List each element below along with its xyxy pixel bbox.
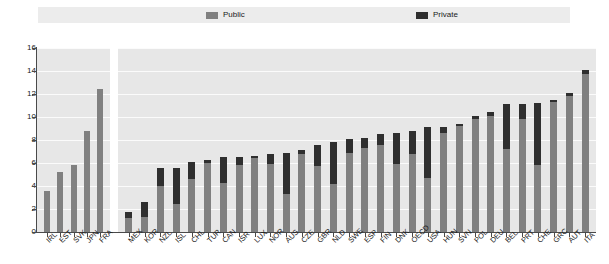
bar-segment-public	[141, 217, 148, 232]
bar-segment-public	[314, 166, 321, 232]
y-axis-tick-mark	[32, 48, 37, 49]
legend-label-public: Public	[223, 11, 245, 19]
y-axis-tick-mark	[32, 140, 37, 141]
bar-nld	[330, 142, 337, 232]
bar-segment-public	[157, 186, 164, 232]
bar-segment-public	[409, 154, 416, 232]
x-axis-tick-mark	[208, 233, 209, 237]
x-axis-tick-mark	[129, 233, 130, 237]
bar-gbr	[314, 145, 321, 232]
bar-segment-private	[330, 142, 337, 183]
bar-segment-public	[377, 145, 384, 232]
bar-segment-public	[236, 165, 243, 232]
stacked-bar-chart: Public Private 1614121086420 IRLESTSVKJP…	[0, 0, 609, 264]
x-axis-tick-mark	[160, 233, 161, 237]
bar-est	[57, 172, 63, 232]
bar-segment-public	[173, 204, 180, 232]
x-axis-tick-mark	[192, 233, 193, 237]
bar-segment-private	[409, 131, 416, 154]
bar-segment-public	[97, 89, 103, 232]
bar-segment-public	[472, 119, 479, 232]
x-axis-tick-mark	[569, 233, 570, 237]
bar-pol	[472, 116, 479, 232]
x-axis-tick-mark	[286, 233, 287, 237]
bar-segment-public	[487, 116, 494, 232]
bar-segment-public	[84, 131, 90, 232]
x-axis-tick-mark	[74, 233, 75, 237]
bar-esp	[361, 138, 368, 232]
bar-segment-public	[204, 163, 211, 232]
bar-segment-public	[267, 164, 274, 232]
gridline	[118, 71, 596, 72]
bar-fra	[97, 89, 103, 232]
y-axis-tick-mark	[32, 117, 37, 118]
gridline	[118, 94, 596, 95]
bar-segment-public	[125, 218, 132, 232]
x-axis-tick-mark	[87, 233, 88, 237]
bar-segment-public	[188, 179, 195, 232]
bar-isr	[236, 157, 243, 232]
bar-irl	[44, 191, 50, 232]
bar-mex	[125, 212, 132, 232]
bar-segment-private	[220, 157, 227, 182]
bar-jpn	[84, 131, 90, 232]
x-axis-tick-mark	[459, 233, 460, 237]
bar-aut	[566, 93, 573, 232]
chart-legend: Public Private	[38, 7, 570, 23]
bar-segment-private	[377, 134, 384, 144]
bar-segment-public	[440, 133, 447, 232]
bar-isl	[173, 168, 180, 232]
bar-cze	[298, 150, 305, 232]
bar-ita	[582, 70, 589, 232]
bar-segment-private	[267, 154, 274, 164]
bar-segment-public	[361, 148, 368, 232]
bar-segment-private	[314, 145, 321, 167]
bar-segment-private	[346, 139, 353, 153]
bar-segment-public	[503, 149, 510, 232]
x-axis-tick-mark	[239, 233, 240, 237]
legend-item-private: Private	[416, 7, 458, 23]
x-axis-tick-mark	[412, 233, 413, 237]
bar-fin	[377, 134, 384, 232]
x-axis-tick-mark	[538, 233, 539, 237]
bar-segment-public	[534, 165, 541, 232]
x-axis-tick-mark	[333, 233, 334, 237]
bar-segment-public	[251, 158, 258, 232]
x-axis-tick-mark	[475, 233, 476, 237]
bar-svn	[456, 124, 463, 232]
bar-segment-private	[236, 157, 243, 165]
x-axis-tick-mark	[585, 233, 586, 237]
x-axis-tick-mark	[60, 233, 61, 237]
x-axis-tick-mark	[318, 233, 319, 237]
bar-usa	[424, 127, 431, 232]
gridline	[118, 48, 596, 49]
bar-segment-private	[361, 138, 368, 148]
bar-segment-public	[57, 172, 63, 232]
bar-svk	[71, 165, 77, 232]
bar-segment-private	[534, 103, 541, 165]
bar-segment-private	[173, 168, 180, 205]
legend-swatch-icon-public	[206, 12, 218, 19]
bar-segment-private	[424, 127, 431, 178]
bar-segment-public	[283, 194, 290, 232]
gridline	[37, 48, 110, 49]
x-axis-tick-mark	[381, 233, 382, 237]
x-axis-tick-mark	[302, 233, 303, 237]
bar-segment-public	[330, 184, 337, 232]
bar-che	[534, 103, 541, 232]
x-axis-tick-mark	[270, 233, 271, 237]
bar-swe	[346, 139, 353, 232]
bar-segment-private	[157, 168, 164, 186]
x-axis-tick-mark	[47, 233, 48, 237]
gridline	[37, 71, 110, 72]
y-axis-tick-mark	[32, 186, 37, 187]
bar-segment-private	[393, 133, 400, 164]
bar-aus	[283, 153, 290, 232]
bar-segment-public	[71, 165, 77, 232]
bar-dnk	[393, 133, 400, 232]
bar-segment-private	[283, 153, 290, 194]
x-axis-tick-mark	[491, 233, 492, 237]
x-axis-tick-mark	[349, 233, 350, 237]
legend-swatch-icon-private	[416, 12, 428, 19]
bar-segment-private	[188, 162, 195, 179]
